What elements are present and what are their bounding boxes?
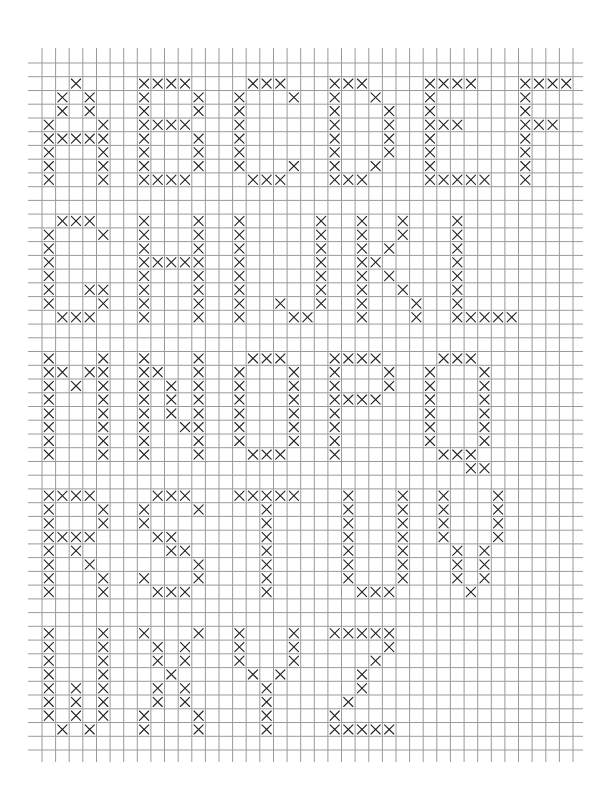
cross-stitch-grid: [0, 0, 616, 790]
x-mark-icon: [548, 120, 557, 129]
x-mark-icon: [398, 532, 407, 541]
x-mark-icon: [262, 574, 271, 583]
x-mark-icon: [194, 574, 203, 583]
x-mark-icon: [262, 491, 271, 500]
x-mark-icon: [289, 381, 298, 390]
x-mark-icon: [521, 162, 530, 171]
x-mark-icon: [398, 505, 407, 514]
x-mark-icon: [466, 79, 475, 88]
x-mark-icon: [425, 107, 434, 116]
x-mark-icon: [548, 79, 557, 88]
x-mark-icon: [85, 368, 94, 377]
x-mark-icon: [344, 574, 353, 583]
x-mark-icon: [385, 244, 394, 253]
x-mark-icon: [194, 436, 203, 445]
x-mark-icon: [85, 725, 94, 734]
x-mark-icon: [235, 162, 244, 171]
x-mark-icon: [357, 175, 366, 184]
x-mark-icon: [357, 587, 366, 596]
x-mark-icon: [140, 505, 149, 514]
x-mark-icon: [453, 79, 462, 88]
x-mark-icon: [385, 381, 394, 390]
x-mark-icon: [562, 79, 571, 88]
x-mark-icon: [44, 629, 53, 638]
x-mark-icon: [194, 423, 203, 432]
x-mark-icon: [235, 395, 244, 404]
x-mark-icon: [425, 368, 434, 377]
x-mark-icon: [521, 107, 530, 116]
x-mark-icon: [521, 148, 530, 157]
x-mark-icon: [44, 354, 53, 363]
x-mark-icon: [357, 313, 366, 322]
x-mark-icon: [453, 354, 462, 363]
x-mark-icon: [85, 560, 94, 569]
x-mark-icon: [357, 258, 366, 267]
x-mark-icon: [262, 505, 271, 514]
x-mark-icon: [371, 354, 380, 363]
x-mark-icon: [140, 244, 149, 253]
x-mark-icon: [140, 79, 149, 88]
x-mark-icon: [44, 423, 53, 432]
x-mark-icon: [425, 175, 434, 184]
x-mark-icon: [344, 532, 353, 541]
x-mark-icon: [153, 642, 162, 651]
x-mark-icon: [317, 230, 326, 239]
x-mark-icon: [344, 519, 353, 528]
x-mark-icon: [71, 313, 80, 322]
x-mark-icon: [344, 697, 353, 706]
x-mark-icon: [85, 93, 94, 102]
x-mark-icon: [276, 79, 285, 88]
x-mark-icon: [194, 258, 203, 267]
x-mark-icon: [235, 491, 244, 500]
x-mark-icon: [44, 299, 53, 308]
x-mark-icon: [398, 560, 407, 569]
x-mark-icon: [344, 395, 353, 404]
x-mark-icon: [180, 587, 189, 596]
x-mark-icon: [180, 642, 189, 651]
x-mark-icon: [466, 464, 475, 473]
x-mark-icon: [330, 120, 339, 129]
x-mark-icon: [99, 684, 108, 693]
x-mark-icon: [167, 395, 176, 404]
x-mark-icon: [194, 230, 203, 239]
x-mark-icon: [44, 684, 53, 693]
x-mark-icon: [357, 244, 366, 253]
x-mark-icon: [235, 409, 244, 418]
x-mark-icon: [99, 423, 108, 432]
x-mark-icon: [194, 354, 203, 363]
x-mark-icon: [99, 587, 108, 596]
x-mark-icon: [289, 368, 298, 377]
x-mark-icon: [99, 519, 108, 528]
x-mark-icon: [262, 175, 271, 184]
x-mark-icon: [453, 120, 462, 129]
x-mark-icon: [71, 216, 80, 225]
x-mark-icon: [330, 148, 339, 157]
x-mark-icon: [44, 587, 53, 596]
x-mark-icon: [153, 258, 162, 267]
x-mark-icon: [235, 656, 244, 665]
x-mark-icon: [357, 670, 366, 679]
x-mark-icon: [153, 532, 162, 541]
x-mark-icon: [371, 395, 380, 404]
x-mark-icon: [439, 491, 448, 500]
x-mark-icon: [140, 409, 149, 418]
x-mark-icon: [180, 684, 189, 693]
x-mark-icon: [140, 258, 149, 267]
x-mark-icon: [140, 107, 149, 116]
x-mark-icon: [371, 258, 380, 267]
x-mark-icon: [235, 216, 244, 225]
x-mark-icon: [289, 629, 298, 638]
x-mark-icon: [99, 656, 108, 665]
x-mark-icon: [317, 258, 326, 267]
x-mark-icon: [99, 670, 108, 679]
x-mark-icon: [235, 368, 244, 377]
x-mark-icon: [180, 79, 189, 88]
x-mark-icon: [140, 436, 149, 445]
x-mark-icon: [371, 725, 380, 734]
x-mark-icon: [140, 381, 149, 390]
x-mark-icon: [357, 271, 366, 280]
x-mark-icon: [44, 120, 53, 129]
x-mark-icon: [99, 574, 108, 583]
x-mark-icon: [153, 491, 162, 500]
x-mark-icon: [453, 175, 462, 184]
